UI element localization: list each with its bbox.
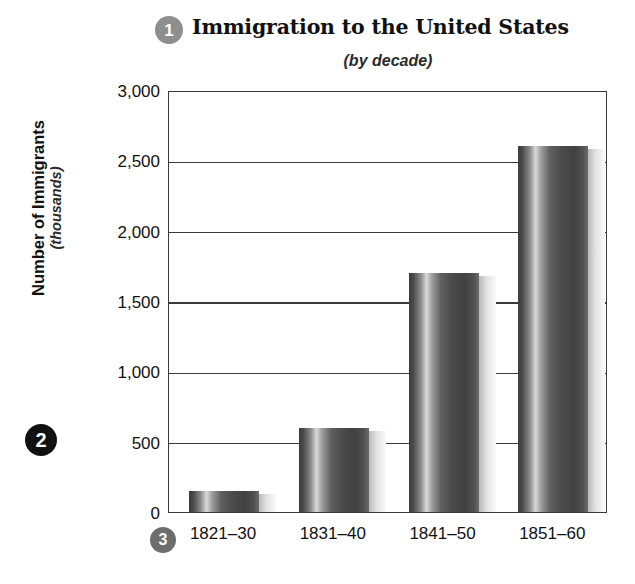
y-axis-tick-label: 2,500: [117, 152, 169, 172]
callout-badge-1-label: 1: [164, 22, 173, 39]
bar-highlight: [259, 494, 276, 512]
y-axis-tick-label: 1,000: [117, 363, 169, 383]
bar: [189, 491, 259, 512]
x-axis-tick-label: 1831–40: [273, 524, 393, 544]
x-axis-tick-label: 1841–50: [383, 524, 503, 544]
bar-highlight: [588, 149, 605, 512]
callout-badge-1: 1: [155, 16, 183, 44]
y-axis-tick-label: 3,000: [117, 82, 169, 102]
plot-area: 3,0002,5002,0001,5001,0005000: [168, 91, 607, 513]
y-axis-subtitle: (thousands): [48, 167, 65, 250]
bar-highlight: [369, 431, 386, 512]
bar: [409, 273, 479, 512]
y-axis-title: Number of Immigrants: [29, 120, 47, 296]
chart-title: Immigration to the United States: [192, 15, 612, 39]
y-axis-title-group: Number of Immigrants (thousands): [24, 43, 70, 373]
chart-subtitle: (by decade): [168, 52, 608, 70]
x-axis-tick-label: 1821–30: [163, 524, 283, 544]
callout-badge-2: 2: [25, 424, 57, 456]
y-axis-tick-label: 500: [132, 434, 169, 454]
callout-badge-2-label: 2: [35, 430, 46, 450]
bar-highlight: [479, 276, 496, 512]
y-axis-tick-label: 0: [151, 504, 169, 524]
y-axis-tick-label: 1,500: [117, 293, 169, 313]
bar: [518, 146, 588, 512]
x-axis-tick-label: 1851–60: [492, 524, 612, 544]
bar: [299, 428, 369, 512]
y-axis-tick-label: 2,000: [117, 223, 169, 243]
